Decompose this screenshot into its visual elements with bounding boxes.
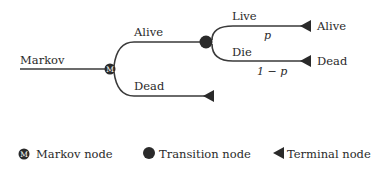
markov-node: M bbox=[105, 64, 116, 75]
root-branch: Markov bbox=[20, 53, 105, 69]
alive-terminal-node-icon bbox=[300, 20, 311, 32]
legend-item-markov: M Markov node bbox=[19, 147, 113, 161]
transition-node-icon bbox=[143, 147, 155, 159]
legend-item-transition: Transition node bbox=[143, 147, 251, 161]
die-probability: 1 − p bbox=[257, 65, 287, 78]
alive-branch-label: Alive bbox=[133, 25, 163, 39]
live-probability: p bbox=[264, 29, 271, 42]
markov-node-glyph: M bbox=[106, 65, 114, 74]
dead-branch-label: Dead bbox=[134, 79, 165, 93]
legend-markov-label: Markov node bbox=[36, 147, 113, 161]
root-label: Markov bbox=[20, 53, 65, 67]
markov-tree-diagram: Markov Alive Dead M Live p Alive Die 1 −… bbox=[0, 0, 379, 175]
die-branch-label: Die bbox=[232, 45, 252, 59]
legend: M Markov node Transition node Terminal n… bbox=[19, 147, 371, 161]
dead-terminal-node-icon-2 bbox=[300, 55, 311, 67]
transition-node-icon bbox=[200, 36, 213, 49]
transition-branches: Live p Alive Die 1 − p Dead bbox=[212, 9, 348, 78]
legend-item-terminal: Terminal node bbox=[273, 147, 371, 161]
alive-terminal-label: Alive bbox=[316, 19, 346, 33]
legend-markov-glyph: M bbox=[20, 150, 28, 159]
live-branch-label: Live bbox=[232, 9, 257, 23]
markov-branches: Alive Dead bbox=[114, 25, 214, 102]
live-branch-line bbox=[212, 26, 304, 40]
dead-terminal-node-icon bbox=[203, 90, 214, 102]
dead-terminal-label: Dead bbox=[317, 54, 348, 68]
terminal-node-icon bbox=[273, 147, 284, 159]
die-branch-line bbox=[212, 44, 304, 61]
legend-transition-label: Transition node bbox=[159, 147, 251, 161]
alive-branch-line bbox=[114, 42, 201, 66]
legend-terminal-label: Terminal node bbox=[287, 147, 371, 161]
